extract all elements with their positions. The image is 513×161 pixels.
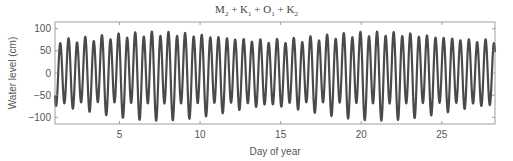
plot-area bbox=[55, 22, 495, 124]
y-tick-label: 50 bbox=[40, 45, 52, 56]
x-tick-label: 15 bbox=[275, 129, 287, 140]
x-tick-label: 25 bbox=[436, 129, 448, 140]
y-tick-label: −50 bbox=[34, 90, 51, 101]
y-tick-label: −100 bbox=[28, 112, 51, 123]
x-tick-label: 10 bbox=[194, 129, 206, 140]
tide-series-line bbox=[55, 32, 495, 121]
x-axis-label: Day of year bbox=[249, 146, 301, 157]
y-tick-label: 100 bbox=[34, 23, 51, 34]
y-axis-label: Water level (cm) bbox=[7, 37, 18, 109]
x-tick-label: 5 bbox=[117, 129, 123, 140]
y-tick-label: 0 bbox=[45, 68, 51, 79]
tide-chart: 510152025 100500−50−100 Day of year Wate… bbox=[0, 0, 513, 161]
x-tick-label: 20 bbox=[356, 129, 368, 140]
